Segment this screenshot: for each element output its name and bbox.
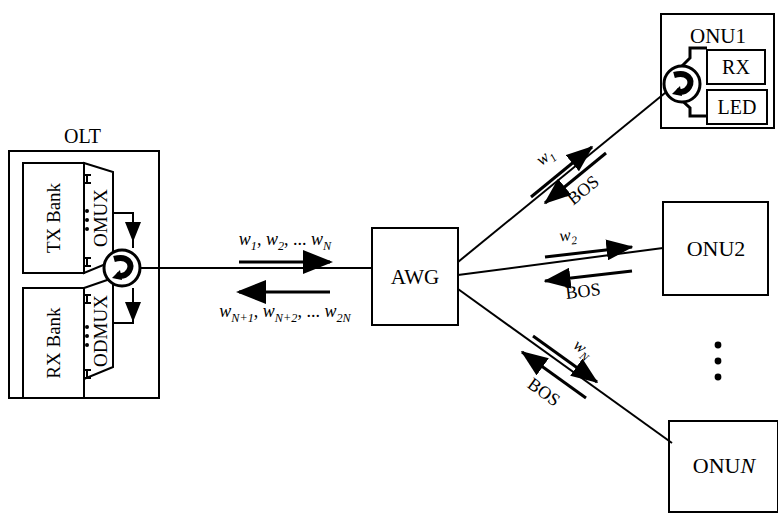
olt-circulator-icon: [104, 250, 140, 286]
rx-bank-label: RX Bank: [44, 307, 63, 378]
branch-2-fiber: [458, 248, 663, 275]
branch-n-fiber: [458, 289, 672, 443]
trunk-upstream-wN2: wN+2: [263, 301, 298, 321]
odmux-label: ODMUX: [91, 295, 110, 367]
trunk-downstream-ellipsis: ...: [293, 229, 307, 249]
sep: ,: [257, 229, 262, 249]
trunk-upstream-w2N: w2N: [324, 301, 350, 321]
onu1-rx-label: RX: [722, 57, 750, 77]
ellipsis-vertical-icon: [715, 342, 722, 381]
rx-bank-ellipsis-icon: [85, 320, 89, 352]
onu2-title: ONU2: [687, 238, 746, 260]
sep: ,: [254, 301, 259, 321]
onu1-circulator-icon: [664, 66, 700, 102]
sep: ,: [297, 301, 302, 321]
trunk-upstream-wN1: wN+1: [219, 301, 254, 321]
trunk-downstream-label: w1, w2, ... wN: [239, 230, 331, 252]
onun-title-suffix: N: [740, 453, 755, 478]
circulator-to-odmux-path: [113, 288, 133, 323]
onun-title: ONUN: [693, 455, 755, 477]
trunk-upstream-ellipsis: ...: [306, 301, 320, 321]
awg-label: AWG: [391, 267, 439, 288]
onu1-title: ONU1: [690, 26, 746, 47]
trunk-downstream-wN: wN: [311, 229, 331, 249]
omux-to-circulator-path: [113, 213, 133, 248]
onu1-led-label: LED: [718, 97, 757, 117]
onun-title-prefix: ONU: [693, 453, 741, 478]
branch-2-upstream-label: BOS: [565, 280, 602, 302]
diagram-canvas: OLT TX Bank RX Bank OMUX ODMUX w1, w2, .…: [0, 0, 778, 521]
olt-title: OLT: [64, 126, 101, 146]
branch-2-downstream-arrow: [545, 247, 632, 257]
tx-bank-ellipsis-icon: [85, 204, 89, 236]
diagram-vector-layer: [0, 0, 778, 521]
omux-label: OMUX: [91, 189, 110, 247]
branch-2-downstream-label: w2: [558, 226, 578, 249]
tx-bank-label: TX Bank: [44, 183, 63, 253]
trunk-downstream-w2: w2: [266, 229, 284, 249]
sep: ,: [284, 229, 289, 249]
trunk-downstream-w1: w1: [239, 229, 257, 249]
trunk-upstream-label: wN+1, wN+2, ... w2N: [219, 302, 350, 324]
